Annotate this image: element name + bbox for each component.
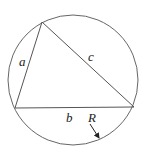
triangle-circumcircle-diagram: a c b R: [0, 0, 145, 150]
label-side-a: a: [19, 54, 26, 69]
radius-arrow: [90, 124, 99, 138]
circumcircle: [8, 15, 138, 145]
label-side-c: c: [88, 49, 94, 64]
label-radius: R: [87, 110, 96, 125]
triangle: [15, 22, 134, 108]
label-side-b: b: [66, 110, 73, 125]
